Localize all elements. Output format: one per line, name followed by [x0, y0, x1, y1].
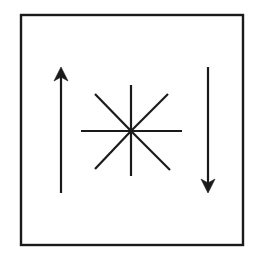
figure-canvas	[0, 0, 257, 260]
figure-diagram	[0, 0, 257, 260]
